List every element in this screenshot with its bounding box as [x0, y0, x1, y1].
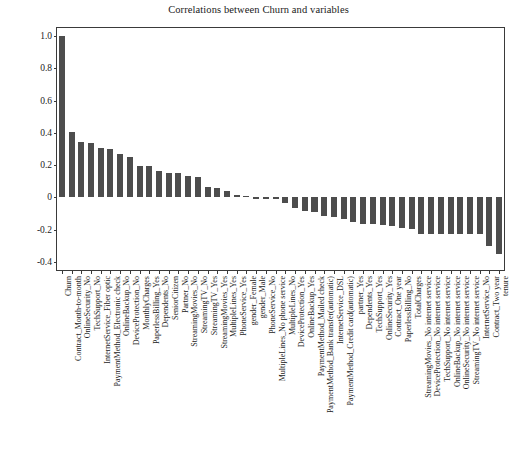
x-axis-tick-label: Contract_Month-to-month: [75, 276, 83, 361]
x-axis-tick-label: partner_Yes: [357, 276, 365, 314]
x-axis-tick-label: StreamingMovies_No internet service: [425, 276, 433, 398]
x-axis-tick-label: Contract_One year: [395, 276, 403, 337]
x-axis-tick-label-text: StreamingMovies_Yes: [221, 276, 229, 349]
x-axis-tick-label: OnlineBackup_No: [123, 276, 131, 336]
x-axis-tick-mark: [489, 271, 490, 274]
bar: [59, 36, 65, 197]
bar: [418, 197, 424, 234]
bar: [156, 171, 162, 197]
x-axis-tick-label-text: OnlineSecurity_No: [84, 276, 92, 338]
x-axis-tick-label-text: OnlineBackup_No: [123, 276, 131, 336]
x-axis-tick-mark: [169, 271, 170, 274]
bar: [331, 197, 337, 217]
bar: [195, 177, 201, 198]
x-axis-tick-mark: [178, 271, 179, 274]
x-axis-tick-mark: [470, 271, 471, 274]
x-axis-tick-label: OnlineSecurity_No: [84, 276, 92, 338]
x-axis-tick-label: PhoneService_Yes: [240, 276, 248, 336]
x-axis-tick-mark: [324, 271, 325, 274]
y-axis-tick-label: 0.2: [4, 160, 52, 170]
x-axis-tick-label: Churn: [65, 276, 73, 296]
x-axis-tick-mark: [198, 271, 199, 274]
x-axis-tick-mark: [110, 271, 111, 274]
x-axis-tick-mark: [266, 271, 267, 274]
bar: [486, 197, 492, 246]
x-axis-tick-label: gender_Male: [259, 276, 267, 318]
x-axis-tick-label: Partner_No: [182, 276, 190, 313]
x-axis-tick-label-text: Partner_No: [182, 276, 190, 313]
bar: [253, 197, 259, 198]
x-axis-tick-mark: [431, 271, 432, 274]
bar: [448, 197, 454, 234]
x-axis-tick-mark: [188, 271, 189, 274]
x-axis-tick-mark: [140, 271, 141, 274]
x-axis-tick-mark: [334, 271, 335, 274]
x-axis-tick-mark: [227, 271, 228, 274]
x-axis-tick-label-text: DeviceProtection_No: [133, 276, 141, 345]
bar: [127, 157, 133, 198]
bar: [224, 191, 230, 197]
x-axis-tick-label: gender_Female: [250, 276, 258, 325]
bar: [234, 195, 240, 197]
bar: [146, 166, 152, 197]
bar: [380, 197, 386, 225]
chart-figure: Correlations between Churn and variables…: [0, 0, 517, 473]
x-axis-tick-label: PhoneService_No: [269, 276, 277, 334]
x-axis-tick-mark: [353, 271, 354, 274]
x-axis-tick-label: DeviceProtection_Yes: [298, 276, 306, 347]
bar: [273, 197, 279, 199]
bar: [428, 197, 434, 234]
x-axis-tick-label: Dependents_No: [162, 276, 170, 328]
x-axis-tick-label-text: partner_Yes: [357, 276, 365, 314]
x-axis-tick-label-text: PhoneService_Yes: [240, 276, 248, 336]
x-axis-tick-label-text: MultipleLines_No phone service: [279, 276, 287, 381]
x-axis-tick-label: TechSupport_No internet service: [444, 276, 452, 382]
x-axis-tick-mark: [315, 271, 316, 274]
y-axis-tick-label: -0.2: [4, 225, 52, 235]
x-axis-tick-label-text: StreamingTV_No: [201, 276, 209, 333]
x-axis-tick-label-text: Contract_One year: [395, 276, 403, 337]
bar: [389, 197, 395, 226]
bar: [311, 197, 317, 212]
x-axis-tick-label-text: Churn: [65, 276, 73, 296]
bar: [185, 176, 191, 197]
x-axis-tick-mark: [246, 271, 247, 274]
x-axis-tick-label: StreamingMovies_No: [191, 276, 199, 347]
bar: [137, 166, 143, 197]
bar: [477, 197, 483, 234]
x-axis-tick-mark: [72, 271, 73, 274]
bar: [117, 154, 123, 197]
x-axis-tick-label: StreamingTV_No: [201, 276, 209, 333]
x-axis-tick-mark: [412, 271, 413, 274]
x-axis-tick-label-text: gender_Male: [259, 276, 267, 318]
y-axis-tick-label: 0.6: [4, 96, 52, 106]
x-axis-tick-mark: [499, 271, 500, 274]
x-axis-tick-mark: [392, 271, 393, 274]
x-axis-tick-label-text: DeviceProtection_Yes: [298, 276, 306, 347]
x-axis-tick-label-text: OnlineBackup_Yes: [308, 276, 316, 338]
bar: [205, 187, 211, 197]
x-axis-tick-mark: [81, 271, 82, 274]
x-axis-tick-label: TechSupport_No: [94, 276, 102, 331]
y-axis-tick-label: 1.0: [4, 31, 52, 41]
x-axis-tick-label-text: TechSupport_No internet service: [444, 276, 452, 382]
x-axis-tick-label: OnlineBackup_No internet service: [454, 276, 462, 387]
x-axis-tick-mark: [91, 271, 92, 274]
bar: [263, 197, 269, 199]
y-axis: 1.00.80.60.40.20-0.2-0.4: [0, 27, 52, 271]
x-axis-tick-label-text: MultipleLines_No: [289, 276, 297, 335]
y-axis-tick-label: 0.8: [4, 63, 52, 73]
x-axis-tick-mark: [120, 271, 121, 274]
x-axis-tick-mark: [402, 271, 403, 274]
x-axis-tick-label: PaymentMethod_Credit card(automatic): [347, 276, 355, 406]
x-axis-tick-label-text: StreamingMovies_No internet service: [425, 276, 433, 398]
x-axis-tick-label-text: StreamingTV_Yes: [211, 276, 219, 335]
x-axis-tick-mark: [101, 271, 102, 274]
x-axis-tick-mark: [441, 271, 442, 274]
x-axis-tick-mark: [451, 271, 452, 274]
bar: [243, 196, 249, 197]
bar: [78, 142, 84, 197]
x-axis-tick-label-text: InternetService_No: [483, 276, 491, 339]
bar: [98, 148, 104, 198]
bar: [399, 197, 405, 228]
